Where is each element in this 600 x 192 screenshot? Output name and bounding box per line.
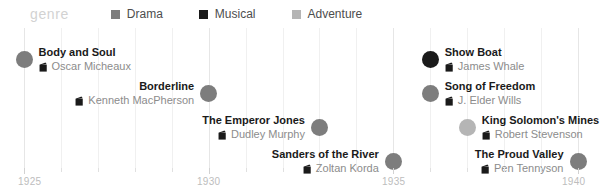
axis-tick-1929 bbox=[172, 168, 173, 172]
square-swatch-icon bbox=[111, 10, 120, 19]
legend-item-adventure[interactable]: Adventure bbox=[292, 7, 363, 21]
entry-title: Song of Freedom bbox=[445, 80, 535, 93]
entry-director-row: James Whale bbox=[445, 59, 525, 73]
timeline-entry[interactable]: Song of FreedomJ. Elder Wills bbox=[422, 80, 535, 107]
gridline-1932 bbox=[283, 28, 284, 168]
film-clapper-icon bbox=[445, 61, 454, 71]
entry-director: James Whale bbox=[458, 59, 525, 73]
entry-title: King Solomon's Mines bbox=[482, 114, 600, 127]
axis-tick-1937 bbox=[467, 168, 468, 172]
timeline-entry[interactable]: The Emperor JonesDudley Murphy bbox=[202, 114, 328, 141]
axis-tick-label: 1930 bbox=[197, 176, 220, 187]
film-clapper-icon bbox=[445, 95, 454, 105]
gridline-1935 bbox=[393, 28, 394, 168]
genre-dot-drama[interactable] bbox=[16, 51, 33, 68]
entry-text: BorderlineKenneth MacPherson bbox=[75, 80, 194, 107]
gridline-1933 bbox=[319, 28, 320, 168]
timeline-entry[interactable]: Show BoatJames Whale bbox=[422, 46, 525, 73]
genre-dot-drama[interactable] bbox=[422, 85, 439, 102]
axis-tick-1930 bbox=[209, 168, 210, 174]
entry-text: Body and SoulOscar Micheaux bbox=[39, 46, 131, 73]
genre-dot-musical[interactable] bbox=[422, 51, 439, 68]
legend-item-musical[interactable]: Musical bbox=[199, 7, 256, 21]
entry-director: J. Elder Wills bbox=[458, 93, 522, 107]
gridline-1931 bbox=[246, 28, 247, 168]
axis-tick-1928 bbox=[135, 168, 136, 172]
axis-tick-1940 bbox=[578, 168, 579, 174]
timeline-entry[interactable]: BorderlineKenneth MacPherson bbox=[75, 80, 217, 107]
gridline-1939 bbox=[541, 28, 542, 168]
entry-director: Dudley Murphy bbox=[231, 127, 305, 141]
entry-title: Show Boat bbox=[445, 46, 525, 59]
entry-director: Kenneth MacPherson bbox=[88, 93, 194, 107]
axis-tick-1934 bbox=[356, 168, 357, 172]
axis-tick-label: 1935 bbox=[382, 176, 405, 187]
entry-director-row: J. Elder Wills bbox=[445, 93, 535, 107]
legend-item-label: Adventure bbox=[308, 7, 363, 21]
entry-director-row: Oscar Micheaux bbox=[39, 59, 131, 73]
entry-text: Song of FreedomJ. Elder Wills bbox=[445, 80, 535, 107]
entry-text: King Solomon's MinesRobert Stevenson bbox=[482, 114, 600, 141]
square-swatch-icon bbox=[199, 10, 208, 19]
axis-tick-1933 bbox=[319, 168, 320, 172]
axis-tick-1938 bbox=[504, 168, 505, 172]
axis-tick-1925 bbox=[24, 168, 25, 174]
legend-item-label: Musical bbox=[215, 7, 256, 21]
legend-items: DramaMusicalAdventure bbox=[111, 7, 398, 21]
entry-director-row: Dudley Murphy bbox=[202, 127, 305, 141]
axis-tick-1939 bbox=[541, 168, 542, 172]
genre-dot-adventure[interactable] bbox=[459, 119, 476, 136]
entry-director-row: Kenneth MacPherson bbox=[75, 93, 194, 107]
legend-item-label: Drama bbox=[127, 7, 163, 21]
timeline-plot: Body and SoulOscar MicheauxBorderlineKen… bbox=[0, 28, 600, 168]
timeline-entry[interactable]: King Solomon's MinesRobert Stevenson bbox=[459, 114, 600, 141]
axis-tick-1936 bbox=[430, 168, 431, 172]
legend-title: genre bbox=[30, 6, 69, 22]
entry-director-row: Robert Stevenson bbox=[482, 127, 600, 141]
genre-dot-drama[interactable] bbox=[200, 85, 217, 102]
entry-text: The Emperor JonesDudley Murphy bbox=[202, 114, 305, 141]
entry-title: The Emperor Jones bbox=[202, 114, 305, 127]
square-swatch-icon bbox=[292, 10, 301, 19]
genre-dot-drama[interactable] bbox=[311, 119, 328, 136]
entry-title: Body and Soul bbox=[39, 46, 131, 59]
film-clapper-icon bbox=[218, 129, 227, 139]
axis-tick-1927 bbox=[98, 168, 99, 172]
entry-director: Oscar Micheaux bbox=[52, 59, 131, 73]
legend: genre DramaMusicalAdventure bbox=[0, 0, 600, 28]
axis-tick-label: 1940 bbox=[562, 176, 585, 187]
legend-item-drama[interactable]: Drama bbox=[111, 7, 163, 21]
entry-text: Show BoatJames Whale bbox=[445, 46, 525, 73]
timeline-entry[interactable]: Body and SoulOscar Micheaux bbox=[16, 46, 131, 73]
entry-title: The Proud Valley bbox=[475, 148, 564, 161]
gridline-1940 bbox=[578, 28, 579, 168]
x-axis: 1925193019351940 bbox=[0, 168, 600, 192]
axis-tick-1932 bbox=[283, 168, 284, 172]
entry-title: Sanders of the River bbox=[272, 148, 379, 161]
film-clapper-icon bbox=[39, 61, 48, 71]
axis-tick-1935 bbox=[393, 168, 394, 174]
axis-tick-1926 bbox=[61, 168, 62, 172]
axis-tick-1931 bbox=[246, 168, 247, 172]
axis-tick-label: 1925 bbox=[18, 176, 41, 187]
entry-director: Robert Stevenson bbox=[495, 127, 583, 141]
entry-title: Borderline bbox=[75, 80, 194, 93]
film-clapper-icon bbox=[482, 129, 491, 139]
gridline-1934 bbox=[356, 28, 357, 168]
film-clapper-icon bbox=[75, 95, 84, 105]
